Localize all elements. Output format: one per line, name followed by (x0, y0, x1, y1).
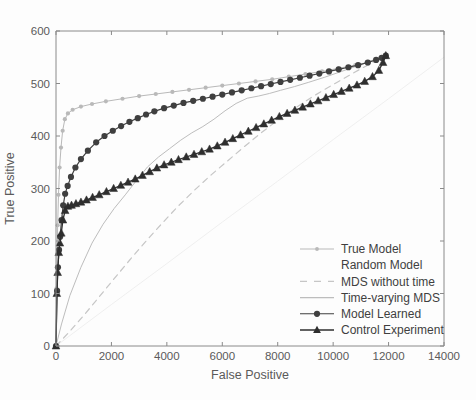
x-axis-title: False Positive (211, 368, 289, 382)
legend-item-true-model[interactable]: True Model (300, 242, 401, 256)
y-axis-title: True Positive (3, 152, 17, 225)
x-tick-label: 8000 (265, 350, 291, 362)
legend-label: Time-varying MDS (341, 291, 440, 305)
y-tick-label: 300 (31, 183, 50, 195)
y-tick-label: 100 (31, 288, 50, 300)
x-tick-label: 6000 (209, 350, 235, 362)
y-tick-label: 500 (31, 78, 50, 90)
x-tick-label: 2000 (99, 350, 125, 362)
legend-item-random-model[interactable]: Random Model (341, 258, 422, 272)
legend-label: Control Experiment (341, 323, 444, 337)
series-time-varying-mds (56, 56, 386, 346)
roc-chart-svg: 0200040006000800010000120001400001002003… (0, 0, 476, 400)
legend-item-mds-without-time[interactable]: MDS without time (300, 275, 435, 289)
legend-item-model-learned[interactable]: Model Learned (300, 307, 421, 321)
y-tick-label: 600 (31, 25, 50, 37)
legend-dot-marker-icon (315, 247, 319, 251)
legend-item-control-experiment[interactable]: Control Experiment (300, 323, 444, 337)
y-tick-label: 400 (31, 130, 50, 142)
x-tick-label: 12000 (373, 350, 405, 362)
x-tick-label: 10000 (317, 350, 349, 362)
series-model-learned (53, 53, 389, 350)
x-tick-label: 4000 (154, 350, 180, 362)
roc-figure: 0200040006000800010000120001400001002003… (0, 0, 476, 400)
legend-circle-marker-icon (314, 311, 320, 317)
y-tick-label: 200 (31, 235, 50, 247)
legend-label: Model Learned (341, 307, 421, 321)
series-mds-without-time (56, 56, 386, 346)
legend-label: True Model (341, 242, 401, 256)
x-tick-label: 0 (53, 350, 59, 362)
y-tick-label: 0 (44, 340, 50, 352)
x-tick-label: 14000 (428, 350, 460, 362)
legend-label: MDS without time (341, 275, 435, 289)
chart-legend: True ModelRandom ModelMDS without timeTi… (300, 242, 444, 337)
legend-item-time-varying-mds[interactable]: Time-varying MDS (300, 291, 440, 305)
legend-label: Random Model (341, 258, 422, 272)
